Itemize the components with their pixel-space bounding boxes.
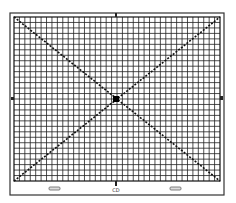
bottom-center-label: CD	[112, 187, 119, 193]
bottom-edge-marker	[115, 181, 117, 186]
left-bottom-slot	[49, 187, 60, 190]
top-edge-marker	[115, 13, 117, 17]
right-bottom-slot	[170, 187, 181, 190]
grid-diagram: CD	[0, 0, 236, 203]
center-marker	[113, 96, 119, 102]
right-edge-marker	[220, 96, 223, 100]
left-edge-marker	[11, 97, 14, 100]
